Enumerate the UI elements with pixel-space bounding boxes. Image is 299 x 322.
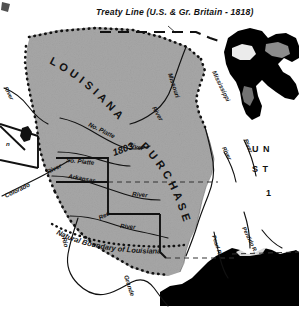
arkansas-river-label: River: [132, 190, 149, 198]
treaty-line-label: Treaty Line (U.S. & Gr. Britain - 1818): [96, 7, 254, 17]
red-river-label: River: [120, 222, 137, 230]
map-canvas: Treaty Line (U.S. & Gr. Britain - 1818) …: [0, 0, 299, 322]
state-fragment-label: n: [6, 140, 10, 147]
historical-map-figure: Treaty Line (U.S. & Gr. Britain - 1818) …: [0, 0, 299, 322]
united-states-label-line2: S T: [252, 164, 269, 174]
united-states-label-line1: U N: [252, 144, 271, 154]
united-states-label-line3: 1: [266, 188, 272, 198]
